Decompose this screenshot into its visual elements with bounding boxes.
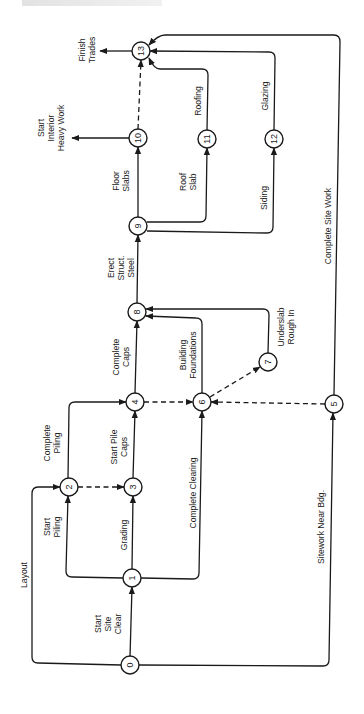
svg-text:9: 9 [133,223,143,228]
node-10[interactable]: 10 [129,129,147,147]
svg-text:3: 3 [128,484,138,489]
node-4[interactable]: 4 [126,393,144,411]
label-erect-struct-steel: ErectStruct.Steel [106,256,136,281]
edge-1-2 [66,496,123,578]
label-roof-slab: RoofSlab [178,172,198,191]
svg-text:0: 0 [125,662,135,667]
label-start-interior-heavy-work: StartInteriorHeavy Work [36,104,66,151]
edge-0-2 [32,487,121,665]
edge-1-3 [132,496,133,569]
node-11[interactable]: 11 [198,130,216,148]
edge-8-9 [137,235,138,303]
svg-text:10: 10 [133,133,143,143]
network-diagram: 0 1 2 3 4 5 6 7 8 9 10 11 12 13 Layout S… [0,0,364,714]
svg-text:4: 4 [130,399,140,404]
node-9[interactable]: 9 [129,217,147,235]
edge-4-8 [135,321,137,393]
edge-12-13 [150,51,275,130]
label-roofing: Roofing [193,86,203,116]
label-complete-site-work: Complete Site Work [323,187,333,264]
svg-text:7: 7 [263,359,273,364]
node-2[interactable]: 2 [60,478,78,496]
edge-6-7 [210,367,260,397]
label-floor-slabs: FloorSlabs [111,170,131,192]
label-complete-caps: CompleteCaps [111,338,131,375]
label-siding: Siding [259,186,269,210]
label-underslab-rough-in: UnderslabRough In [276,307,296,346]
node-5[interactable]: 5 [325,395,343,413]
svg-text:1: 1 [127,575,137,580]
node-3[interactable]: 3 [124,478,142,496]
svg-text:5: 5 [329,401,339,406]
label-grading: Grading [119,519,129,550]
label-building-foundations: BuildingFoundations [178,331,198,378]
label-start-site-clear: StartSiteClear [93,614,123,635]
label-glazing: Glazing [260,81,270,110]
svg-text:2: 2 [64,484,74,489]
node-8[interactable]: 8 [128,303,146,321]
node-6[interactable]: 6 [193,393,211,411]
svg-text:13: 13 [136,46,146,56]
label-sitework-near-bdg: Sitework Near Bdg. [316,490,326,564]
label-finish-trades: FinishTrades [77,37,97,63]
edge-9-11 [147,148,207,222]
label-start-piling: StartPiling [42,516,62,537]
edge-0-1 [130,587,132,657]
svg-text:6: 6 [197,399,207,404]
edge-5-6 [211,402,325,404]
node-1[interactable]: 1 [123,569,141,587]
node-0[interactable]: 0 [121,656,139,674]
edge-3-4 [133,411,135,478]
node-12[interactable]: 12 [265,130,283,148]
svg-text:11: 11 [202,134,212,143]
node-13[interactable]: 13 [132,42,150,60]
node-7[interactable]: 7 [259,353,277,371]
label-start-pile-caps: Start PileCaps [109,429,129,464]
edge-10-13 [138,60,141,129]
edge-0-5 [139,413,333,666]
edge-9-12 [147,148,274,233]
svg-text:8: 8 [132,309,142,314]
label-complete-clearing: Complete Clearing [188,457,198,528]
label-layout: Layout [19,561,29,587]
edge-7-8 [146,309,269,353]
svg-text:12: 12 [269,134,279,144]
label-complete-piling: CompletePiling [42,424,62,461]
